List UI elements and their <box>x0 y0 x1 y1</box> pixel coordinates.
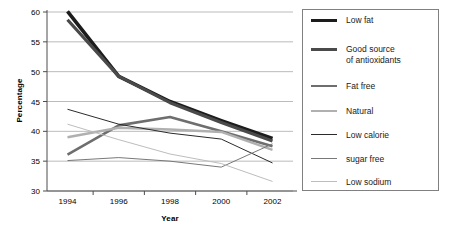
series-line-1 <box>68 20 273 141</box>
x-tick-label: 1998 <box>161 197 179 206</box>
series-line-5 <box>68 144 273 167</box>
legend-item-5[interactable]: sugar free <box>311 154 437 165</box>
x-tick-label: 1996 <box>110 197 128 206</box>
y-axis-title: Percentage <box>15 68 24 134</box>
legend-swatch-icon <box>311 134 337 135</box>
legend-label: sugar free <box>346 154 384 165</box>
y-tick-label: 45 <box>31 98 40 107</box>
legend-swatch-icon <box>311 158 337 159</box>
legend-label: Fat free <box>346 81 375 92</box>
y-tick-label: 35 <box>31 157 40 166</box>
data-series-group <box>68 11 273 181</box>
x-tick-labels: 19941996199820002002 <box>59 197 282 206</box>
legend-label: Natural <box>346 106 373 117</box>
legend-swatch-icon <box>311 85 337 87</box>
x-tick-label: 2000 <box>212 197 230 206</box>
legend-label: Good source of antioxidants <box>346 44 401 65</box>
legend-label: Low calorie <box>346 130 389 141</box>
x-axis <box>47 191 297 195</box>
y-axis <box>43 10 47 191</box>
legend-swatch-icon <box>311 48 337 51</box>
legend-item-2[interactable]: Fat free <box>311 81 437 92</box>
y-tick-label: 50 <box>31 68 40 77</box>
line-chart-figure: 30354045505560 19941996199820002002 Perc… <box>0 0 449 237</box>
y-tick-labels: 30354045505560 <box>31 8 40 196</box>
y-tick-label: 60 <box>31 8 40 17</box>
legend-item-3[interactable]: Natural <box>311 106 437 117</box>
y-tick-label: 30 <box>31 187 40 196</box>
legend-label: Low sodium <box>346 177 391 188</box>
legend-item-0[interactable]: Low fat <box>311 15 437 26</box>
y-tick-label: 40 <box>31 127 40 136</box>
series-line-0 <box>68 11 273 138</box>
legend-item-6[interactable]: Low sodium <box>311 177 437 188</box>
chart-legend: Low fatGood source of antioxidantsFat fr… <box>302 9 439 191</box>
legend-item-4[interactable]: Low calorie <box>311 130 437 141</box>
x-tick-label: 2002 <box>264 197 282 206</box>
y-tick-label: 55 <box>31 38 40 47</box>
legend-swatch-icon <box>311 181 337 182</box>
legend-label: Low fat <box>346 15 373 26</box>
legend-swatch-icon <box>311 19 337 22</box>
x-tick-label: 1994 <box>59 197 77 206</box>
x-axis-title: Year <box>46 214 294 223</box>
legend-item-1[interactable]: Good source of antioxidants <box>311 44 437 65</box>
legend-swatch-icon <box>311 110 337 112</box>
